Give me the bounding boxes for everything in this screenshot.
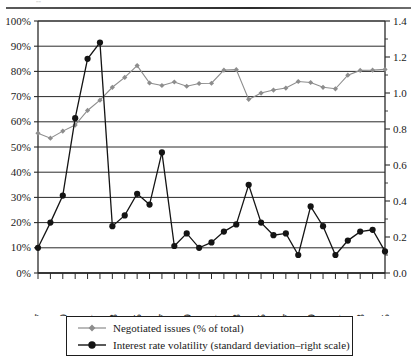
left-axis-tick-label: 10%	[11, 241, 31, 253]
data-point-interest-rate-volatility	[159, 149, 165, 155]
data-point-negotiated-issues	[197, 81, 202, 86]
data-point-interest-rate-volatility	[146, 202, 152, 208]
data-point-interest-rate-volatility	[84, 56, 90, 62]
data-point-interest-rate-volatility	[382, 248, 388, 254]
legend-label-negotiated-issues: Negotiated issues (% of total)	[113, 322, 244, 334]
data-point-interest-rate-volatility	[60, 193, 66, 199]
data-point-interest-rate-volatility	[370, 227, 376, 233]
data-point-interest-rate-volatility	[122, 212, 128, 218]
left-axis-tick-label: 100%	[5, 15, 31, 27]
data-point-negotiated-issues	[320, 85, 325, 90]
data-point-interest-rate-volatility	[109, 223, 115, 229]
right-axis-tick-label: 0.8	[393, 123, 407, 135]
diamond-marker-icon	[77, 322, 107, 334]
data-point-negotiated-issues	[48, 136, 53, 141]
data-point-interest-rate-volatility	[221, 229, 227, 235]
data-point-interest-rate-volatility	[171, 243, 177, 249]
chart-plot-area: 0%10%20%30%40%50%60%70%80%90%100%0.00.20…	[0, 0, 417, 316]
left-axis-tick-label: 30%	[11, 191, 31, 203]
page-rule	[6, 7, 411, 9]
x-axis-tick-label: 2003	[354, 314, 366, 317]
chart-legend: Negotiated issues (% of total) Interest …	[66, 316, 353, 356]
data-point-interest-rate-volatility	[258, 220, 264, 226]
data-point-negotiated-issues	[370, 68, 375, 73]
legend-label-interest-rate-volatility: Interest rate volatility (standard devia…	[113, 339, 350, 351]
x-axis-tick-label: 1977	[32, 314, 44, 317]
data-point-interest-rate-volatility	[295, 252, 301, 258]
data-point-negotiated-issues	[358, 68, 363, 73]
data-point-negotiated-issues	[308, 80, 313, 85]
data-point-interest-rate-volatility	[345, 238, 351, 244]
data-point-interest-rate-volatility	[208, 239, 214, 245]
left-axis-tick-label: 80%	[11, 65, 31, 77]
data-point-interest-rate-volatility	[270, 232, 276, 238]
x-axis-tick-label: 2005	[379, 314, 391, 317]
data-point-interest-rate-volatility	[308, 203, 314, 209]
left-axis-tick-label: 40%	[11, 166, 31, 178]
right-axis-tick-label: 1.2	[393, 51, 407, 63]
data-point-negotiated-issues	[35, 131, 40, 136]
data-point-negotiated-issues	[296, 79, 301, 84]
right-axis-tick-label: 0.2	[393, 231, 407, 243]
data-point-interest-rate-volatility	[134, 191, 140, 197]
data-point-negotiated-issues	[283, 85, 288, 90]
page-artifact-text: ""	[36, 0, 45, 6]
left-axis-tick-label: 90%	[11, 40, 31, 52]
data-point-interest-rate-volatility	[97, 40, 103, 46]
circle-marker-icon	[77, 339, 107, 351]
legend-item-negotiated-issues: Negotiated issues (% of total)	[77, 321, 244, 335]
data-point-negotiated-issues	[271, 87, 276, 92]
data-point-interest-rate-volatility	[283, 230, 289, 236]
data-point-negotiated-issues	[159, 83, 164, 88]
left-axis-tick-label: 60%	[11, 115, 31, 127]
series-line-interest-rate-volatility	[38, 43, 385, 255]
right-axis-tick-label: 0.6	[393, 159, 407, 171]
left-axis-tick-label: 0%	[16, 267, 31, 279]
data-point-interest-rate-volatility	[233, 221, 239, 227]
right-axis-tick-label: 0.4	[393, 195, 407, 207]
data-point-interest-rate-volatility	[320, 223, 326, 229]
data-point-interest-rate-volatility	[332, 252, 338, 258]
data-point-negotiated-issues	[172, 79, 177, 84]
right-axis-tick-label: 1.4	[393, 15, 407, 27]
data-point-negotiated-issues	[246, 97, 251, 102]
data-point-negotiated-issues	[184, 84, 189, 89]
data-point-interest-rate-volatility	[357, 229, 363, 235]
data-point-negotiated-issues	[258, 90, 263, 95]
left-axis-tick-label: 20%	[11, 216, 31, 228]
data-point-interest-rate-volatility	[47, 220, 53, 226]
data-point-negotiated-issues	[60, 129, 65, 134]
legend-item-interest-rate-volatility: Interest rate volatility (standard devia…	[77, 338, 350, 352]
left-axis-tick-label: 50%	[11, 141, 31, 153]
series-line-negotiated-issues	[38, 66, 385, 139]
data-point-interest-rate-volatility	[196, 245, 202, 251]
data-point-interest-rate-volatility	[184, 230, 190, 236]
data-point-interest-rate-volatility	[246, 182, 252, 188]
data-point-interest-rate-volatility	[35, 245, 41, 251]
right-axis-tick-label: 1.0	[393, 87, 407, 99]
right-axis-tick-label: 0.0	[393, 267, 407, 279]
data-point-interest-rate-volatility	[72, 115, 78, 121]
left-axis-tick-label: 70%	[11, 90, 31, 102]
chart-figure: "" 0%10%20%30%40%50%60%70%80%90%100%0.00…	[0, 0, 417, 360]
